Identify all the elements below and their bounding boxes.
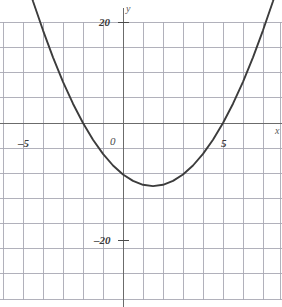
x-tick-label-pos5: 5 <box>221 138 227 149</box>
x-axis-label: x <box>275 126 279 136</box>
plot-background <box>0 0 282 307</box>
origin-label: 0 <box>110 136 116 147</box>
x-tick-label-neg5: –5 <box>18 138 29 149</box>
y-tick-label-neg20: –20 <box>94 235 111 246</box>
y-axis-label: y <box>126 4 130 14</box>
graph-figure: –5 0 5 20 –20 y x <box>0 0 282 307</box>
coordinate-plane <box>0 0 282 307</box>
y-tick-label-20: 20 <box>99 17 110 28</box>
